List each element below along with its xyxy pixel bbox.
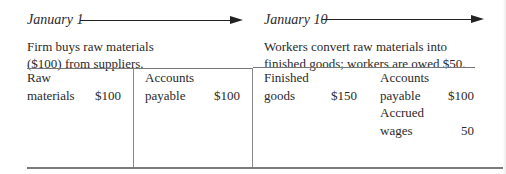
asset-label: Finished	[264, 69, 309, 86]
timeline-date-jan-10: January 10	[264, 12, 327, 28]
bottom-rule	[27, 167, 505, 169]
liability-amount: 50	[430, 122, 474, 139]
asset-label: goods	[264, 87, 295, 104]
liability-label: payable	[380, 87, 420, 104]
timeline-arrow-line	[80, 20, 232, 21]
arrow-right-icon	[471, 15, 484, 23]
asset-amount: $150	[320, 87, 357, 104]
t-account-top-rule-right	[253, 67, 475, 68]
asset-label: Raw	[27, 69, 51, 86]
transaction-description-line-1: Firm buys raw materials	[27, 38, 154, 55]
liability-label: payable	[145, 87, 185, 104]
t-account-divider-left	[133, 68, 134, 169]
asset-label: materials	[27, 87, 75, 104]
liability-label: wages	[380, 122, 413, 139]
liability-amount: $100	[200, 87, 240, 104]
asset-amount: $100	[80, 87, 121, 104]
timeline-date-jan-1: January 1	[27, 12, 83, 28]
t-account-top-rule-left	[27, 68, 253, 69]
timeline-arrow-line	[322, 19, 472, 20]
liability-label: Accounts	[380, 69, 429, 86]
transaction-description-line-1: Workers convert raw materials into	[264, 38, 447, 55]
arrow-right-icon	[230, 16, 243, 24]
liability-amount: $100	[430, 87, 474, 104]
panel-separator	[252, 68, 253, 169]
liability-label: Accounts	[145, 69, 194, 86]
liability-label: Accrued	[380, 104, 424, 121]
